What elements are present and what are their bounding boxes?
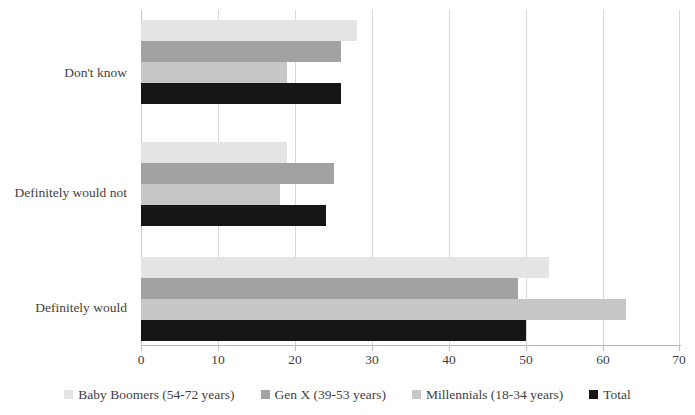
- category-label-dont-know: Don't know: [64, 66, 127, 80]
- bar-definitely-would-not-millennials[interactable]: [141, 184, 280, 205]
- bar-definitely-would-millennials[interactable]: [141, 299, 626, 320]
- x-tick-label-60: 60: [596, 353, 610, 367]
- bar-definitely-would-baby-boomers[interactable]: [141, 257, 549, 278]
- bar-row: [141, 62, 680, 83]
- bar-dont-know-baby-boomers[interactable]: [141, 20, 357, 41]
- x-tick-mark: [141, 345, 142, 351]
- bar-row: [141, 41, 680, 62]
- bar-group-dont-know: [141, 18, 680, 106]
- legend-swatch-icon: [261, 390, 270, 399]
- x-axis: 0 10 20 30 40 50 60 70: [141, 345, 680, 369]
- bar-chart: Don't know Definitely would not Definite…: [0, 0, 695, 415]
- x-tick-mark: [295, 345, 296, 351]
- bar-row: [141, 205, 680, 226]
- x-tick-label-40: 40: [442, 353, 456, 367]
- bar-row: [141, 142, 680, 163]
- x-tick-label-30: 30: [365, 353, 379, 367]
- legend-label: Total: [603, 388, 631, 402]
- legend-item-total[interactable]: Total: [589, 388, 631, 402]
- bar-definitely-would-not-baby-boomers[interactable]: [141, 142, 287, 163]
- legend-item-gen-x[interactable]: Gen X (39-53 years): [261, 388, 386, 402]
- bar-definitely-would-gen-x[interactable]: [141, 278, 518, 299]
- bar-dont-know-millennials[interactable]: [141, 62, 287, 83]
- bar-row: [141, 278, 680, 299]
- bar-group-definitely-would: [141, 255, 680, 343]
- bar-row: [141, 163, 680, 184]
- legend-swatch-icon: [589, 390, 598, 399]
- bar-group-definitely-would-not: [141, 140, 680, 228]
- legend-label: Baby Boomers (54-72 years): [78, 388, 234, 402]
- bar-row: [141, 184, 680, 205]
- bar-groups: [141, 10, 680, 345]
- x-tick-mark: [218, 345, 219, 351]
- legend-label: Gen X (39-53 years): [275, 388, 386, 402]
- x-tick-label-20: 20: [288, 353, 302, 367]
- x-tick-label-0: 0: [138, 353, 145, 367]
- plot-area: [141, 10, 680, 345]
- x-tick-label-10: 10: [211, 353, 225, 367]
- x-tick-mark: [449, 345, 450, 351]
- x-tick-mark: [526, 345, 527, 351]
- x-tick-label-70: 70: [672, 353, 686, 367]
- legend-label: Millennials (18-34 years): [426, 388, 563, 402]
- x-tick-mark: [372, 345, 373, 351]
- x-tick-mark: [603, 345, 604, 351]
- legend-item-millennials[interactable]: Millennials (18-34 years): [412, 388, 563, 402]
- bar-row: [141, 257, 680, 278]
- legend: Baby Boomers (54-72 years) Gen X (39-53 …: [0, 388, 695, 402]
- category-label-definitely-would: Definitely would: [35, 301, 127, 315]
- category-label-definitely-would-not: Definitely would not: [15, 186, 127, 200]
- bar-definitely-would-total[interactable]: [141, 320, 526, 341]
- legend-swatch-icon: [64, 390, 73, 399]
- bar-definitely-would-not-total[interactable]: [141, 205, 326, 226]
- x-tick-mark: [679, 345, 680, 351]
- bar-row: [141, 299, 680, 320]
- category-axis: Don't know Definitely would not Definite…: [0, 10, 135, 345]
- bar-dont-know-total[interactable]: [141, 83, 341, 104]
- bar-dont-know-gen-x[interactable]: [141, 41, 341, 62]
- bar-row: [141, 20, 680, 41]
- bar-row: [141, 83, 680, 104]
- x-tick-label-50: 50: [519, 353, 533, 367]
- bar-definitely-would-not-gen-x[interactable]: [141, 163, 334, 184]
- legend-item-baby-boomers[interactable]: Baby Boomers (54-72 years): [64, 388, 234, 402]
- legend-swatch-icon: [412, 390, 421, 399]
- bar-row: [141, 320, 680, 341]
